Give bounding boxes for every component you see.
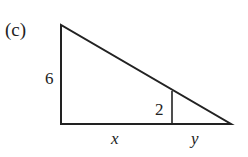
- base-y-label: y: [191, 130, 199, 147]
- figure-label: (c): [5, 20, 26, 39]
- side-length-label: 6: [45, 70, 54, 87]
- large-right-triangle: [61, 25, 231, 124]
- triangle-diagram: [0, 0, 248, 157]
- base-x-label: x: [111, 130, 119, 147]
- inner-height-label: 2: [155, 101, 164, 118]
